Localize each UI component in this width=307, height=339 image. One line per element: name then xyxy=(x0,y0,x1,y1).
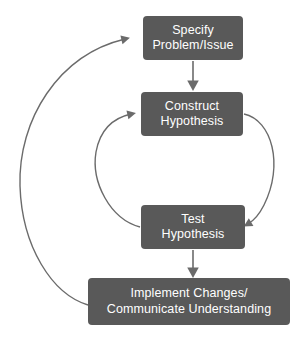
connector-test-to-construct xyxy=(95,114,140,227)
node-construct-line-1: Construct xyxy=(165,99,219,114)
node-construct-hypothesis[interactable]: Construct Hypothesis xyxy=(141,92,243,136)
node-specify-line-2: Problem/Issue xyxy=(152,38,233,53)
connector-implement-to-specify xyxy=(20,39,125,305)
node-specify-problem[interactable]: Specify Problem/Issue xyxy=(143,16,243,60)
node-test-line-2: Hypothesis xyxy=(162,227,225,242)
node-implement-line-2: Communicate Understanding xyxy=(107,302,271,317)
flowchart-diagram: Specify Problem/Issue Construct Hypothes… xyxy=(0,0,307,339)
connector-construct-to-test xyxy=(244,114,274,224)
node-implement-communicate[interactable]: Implement Changes/ Communicate Understan… xyxy=(88,278,290,325)
node-specify-line-1: Specify xyxy=(172,23,214,38)
node-test-hypothesis[interactable]: Test Hypothesis xyxy=(141,205,245,249)
node-construct-line-2: Hypothesis xyxy=(161,114,224,129)
node-test-line-1: Test xyxy=(181,212,204,227)
node-implement-line-1: Implement Changes/ xyxy=(130,286,247,301)
